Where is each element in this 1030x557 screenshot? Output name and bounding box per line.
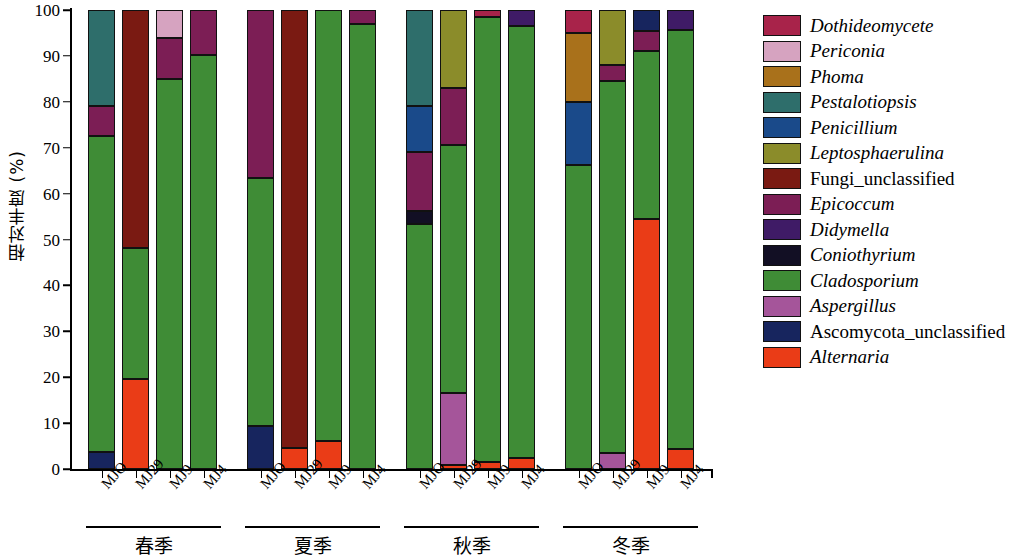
bar-segment [406, 224, 433, 469]
bar-segment [633, 51, 660, 219]
bar-segment [88, 136, 115, 451]
bar-segment [190, 55, 217, 469]
bar-segment [633, 10, 660, 31]
bar-segment [156, 38, 183, 80]
legend-item: Cladosporium [763, 268, 1005, 294]
legend-item: Ascomycota_unclassified [763, 319, 1005, 345]
legend-item-label: Phoma [810, 66, 864, 88]
stacked-bar [633, 10, 660, 469]
group-rule [404, 526, 539, 528]
stacked-bar [190, 10, 217, 469]
bar-segment [633, 219, 660, 469]
group-label: 冬季 [563, 531, 698, 557]
group-rule [86, 526, 221, 528]
y-axis-tick-label: 70 [14, 139, 60, 156]
stacked-bar-chart-figure: 相对丰度 (%) 0102030405060708090100 MJOMJ29M… [0, 0, 1030, 557]
y-axis-tick-label: 40 [14, 277, 60, 294]
legend-item: Fungi_unclassified [763, 166, 1005, 192]
bar-segment [247, 10, 274, 178]
bar-segment [156, 79, 183, 469]
stacked-bar [315, 10, 342, 469]
legend-item: Didymella [763, 217, 1005, 243]
legend-color-swatch [763, 66, 801, 87]
bar-segment [565, 102, 592, 165]
y-axis-tick-label: 90 [14, 47, 60, 64]
bar-segment [565, 33, 592, 102]
y-axis-tick-label: 0 [14, 461, 60, 478]
legend-item-label: Leptosphaerulina [810, 142, 944, 164]
bar-segment [599, 81, 626, 453]
legend-item: Periconia [763, 39, 1005, 65]
bar-segment [156, 10, 183, 38]
bar-segment [281, 10, 308, 448]
legend-item: Aspergillus [763, 294, 1005, 320]
legend-item: Phoma [763, 64, 1005, 90]
bar-segment [122, 10, 149, 248]
legend-item-label: Ascomycota_unclassified [810, 321, 1005, 343]
stacked-bar [349, 10, 376, 469]
bar-segment [440, 10, 467, 88]
legend-item: Epicoccum [763, 192, 1005, 218]
legend-item-label: Didymella [810, 219, 889, 241]
stacked-bar [440, 10, 467, 469]
y-axis-tick-label: 80 [14, 93, 60, 110]
legend-color-swatch [763, 296, 801, 317]
legend-color-swatch [763, 168, 801, 189]
y-axis-tick-mark [63, 9, 70, 11]
stacked-bar [667, 10, 694, 469]
y-axis-tick-mark [63, 193, 70, 195]
bar-segment [565, 10, 592, 33]
bar-segment [440, 393, 467, 465]
y-axis-tick-mark [63, 147, 70, 149]
legend-color-swatch [763, 347, 801, 368]
legend-color-swatch [763, 41, 801, 62]
group-label: 春季 [86, 531, 221, 557]
bar-segment [247, 426, 274, 469]
stacked-bar [474, 10, 501, 469]
stacked-bar [599, 10, 626, 469]
x-axis-tick-mark [711, 469, 713, 478]
group-rule [563, 526, 698, 528]
stacked-bar [247, 10, 274, 469]
legend-color-swatch [763, 321, 801, 342]
bar-segment [122, 379, 149, 469]
y-axis-tick-label: 30 [14, 323, 60, 340]
legend-item: Penicillium [763, 115, 1005, 141]
bar-segment [474, 10, 501, 17]
bar-segment [406, 211, 433, 225]
group-rule [245, 526, 380, 528]
stacked-bar [88, 10, 115, 469]
legend-color-swatch [763, 143, 801, 164]
y-axis-tick-mark [63, 376, 70, 378]
stacked-bar [406, 10, 433, 469]
group-label: 夏季 [245, 531, 380, 557]
legend-color-swatch [763, 219, 801, 240]
y-axis-tick-label: 50 [14, 231, 60, 248]
bar-segment [88, 106, 115, 136]
legend-color-swatch [763, 245, 801, 266]
bar-segment [508, 26, 535, 457]
bar-segment [406, 10, 433, 106]
y-axis-tick-mark [63, 101, 70, 103]
bar-segment [440, 88, 467, 145]
legend-item-label: Aspergillus [810, 295, 896, 317]
legend-item-label: Fungi_unclassified [810, 168, 955, 190]
bar-segment [315, 10, 342, 441]
y-axis-tick-mark [63, 331, 70, 333]
y-axis-tick-label: 60 [14, 185, 60, 202]
y-axis-tick-mark [63, 422, 70, 424]
legend-item: Leptosphaerulina [763, 141, 1005, 167]
legend-item-label: Coniothyrium [810, 244, 916, 266]
bar-segment [406, 152, 433, 210]
stacked-bar [156, 10, 183, 469]
bar-segment [633, 31, 660, 52]
legend-item: Dothideomycete [763, 13, 1005, 39]
y-axis-tick-mark [63, 468, 70, 470]
y-axis-tick-label: 10 [14, 415, 60, 432]
legend-item: Coniothyrium [763, 243, 1005, 269]
x-axis-line [70, 469, 712, 471]
bar-segment [599, 10, 626, 65]
bar-segment [349, 24, 376, 469]
y-axis-tick-mark [63, 285, 70, 287]
bar-segment [565, 165, 592, 469]
